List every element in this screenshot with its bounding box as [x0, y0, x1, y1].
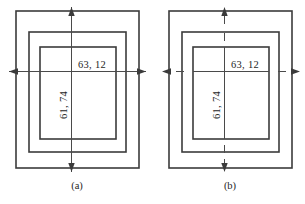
- panel-b-vertical-dimension-label: 61, 74: [211, 91, 222, 119]
- panel-a-outer-rect: [16, 11, 139, 168]
- technical-drawing-figure: 63, 12 61, 74 (a) 63: [0, 0, 305, 204]
- panel-a-vertical-dimension-label: 61, 74: [58, 91, 69, 119]
- panel-b-outer-rect: [169, 11, 292, 168]
- panel-a-arrow-right-icon: [137, 68, 146, 74]
- panel-b-arrow-left-icon: [162, 68, 171, 74]
- panel-a-middle-rect: [29, 32, 126, 152]
- panel-a-horizontal-dimension-label: 63, 12: [78, 59, 106, 70]
- panel-b-middle-rect: [182, 32, 279, 152]
- panel-a-caption: (a): [71, 180, 83, 192]
- panel-b: 63, 12 61, 74 (b): [162, 7, 300, 192]
- panel-a: 63, 12 61, 74 (a): [9, 7, 146, 192]
- panel-b-caption: (b): [224, 180, 237, 192]
- panel-b-horizontal-dimension-label: 63, 12: [231, 59, 259, 70]
- panel-a-arrow-left-icon: [9, 68, 18, 74]
- panel-b-arrow-right-icon: [291, 68, 300, 74]
